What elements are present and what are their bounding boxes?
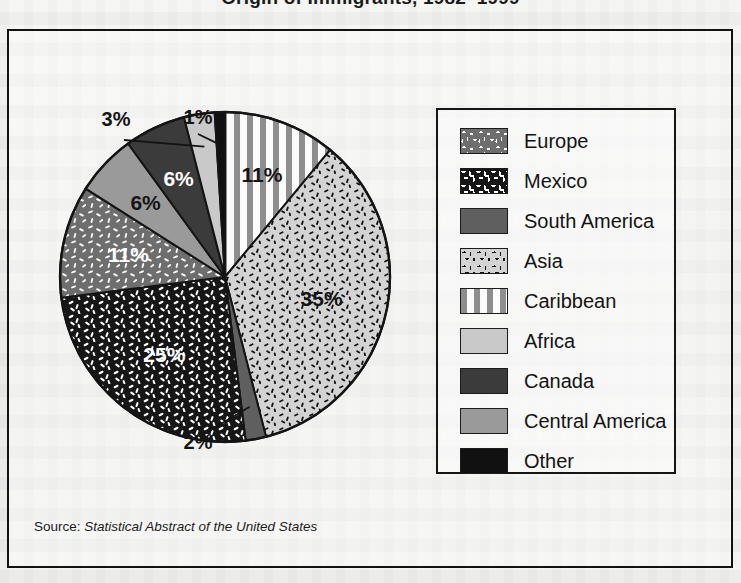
pie-label-caribbean: 11% bbox=[241, 163, 282, 186]
legend-item-label: Africa bbox=[524, 331, 575, 351]
asia-swatch bbox=[460, 248, 508, 274]
legend-item-label: Asia bbox=[524, 251, 563, 271]
legend-item-label: Canada bbox=[524, 371, 594, 391]
africa-swatch bbox=[460, 328, 508, 354]
legend-item-mexico[interactable]: Mexico bbox=[460, 163, 666, 199]
mexico-swatch bbox=[460, 168, 508, 194]
canada-swatch bbox=[460, 368, 508, 394]
pie-chart-svg: 11%35%2%25%11%6%6%3%1% bbox=[52, 104, 398, 450]
pie-chart: 11%35%2%25%11%6%6%3%1% bbox=[52, 104, 398, 450]
pie-label-mexico: 25% bbox=[143, 343, 185, 366]
pie-label-other: 1% bbox=[184, 106, 213, 128]
legend-items: EuropeMexicoSouth AmericaAsiaCaribbeanAf… bbox=[460, 123, 666, 479]
legend: EuropeMexicoSouth AmericaAsiaCaribbeanAf… bbox=[436, 108, 676, 474]
legend-item-canada[interactable]: Canada bbox=[460, 363, 666, 399]
legend-item-south-america[interactable]: South America bbox=[460, 203, 666, 239]
europe-swatch bbox=[460, 128, 508, 154]
south-america-swatch bbox=[460, 208, 508, 234]
legend-item-central-america[interactable]: Central America bbox=[460, 403, 666, 439]
pie-label-canada: 6% bbox=[163, 167, 194, 190]
legend-item-other[interactable]: Other bbox=[460, 443, 666, 479]
legend-item-label: Mexico bbox=[524, 171, 587, 191]
caribbean-swatch bbox=[460, 288, 508, 314]
other-swatch bbox=[460, 448, 508, 474]
legend-item-label: Central America bbox=[524, 411, 666, 431]
pie-label-south-america: 2% bbox=[184, 431, 213, 450]
legend-item-asia[interactable]: Asia bbox=[460, 243, 666, 279]
pie-label-central-america: 6% bbox=[130, 191, 161, 214]
pie-label-europe: 11% bbox=[108, 243, 149, 266]
pie-label-asia: 35% bbox=[301, 287, 343, 310]
legend-item-label: South America bbox=[524, 211, 654, 231]
legend-item-caribbean[interactable]: Caribbean bbox=[460, 283, 666, 319]
legend-item-europe[interactable]: Europe bbox=[460, 123, 666, 159]
legend-item-label: Europe bbox=[524, 131, 589, 151]
figure-title: Origin of Immigrants, 1982–1999 bbox=[0, 0, 741, 9]
legend-item-africa[interactable]: Africa bbox=[460, 323, 666, 359]
legend-item-label: Caribbean bbox=[524, 291, 616, 311]
pie-slices bbox=[60, 112, 390, 442]
pie-label-africa: 3% bbox=[102, 108, 131, 130]
source-note: Source: Statistical Abstract of the Unit… bbox=[34, 519, 317, 534]
legend-item-label: Other bbox=[524, 451, 574, 471]
central-america-swatch bbox=[460, 408, 508, 434]
source-prefix: Source: bbox=[34, 519, 84, 534]
source-publication: Statistical Abstract of the United State… bbox=[84, 519, 317, 534]
